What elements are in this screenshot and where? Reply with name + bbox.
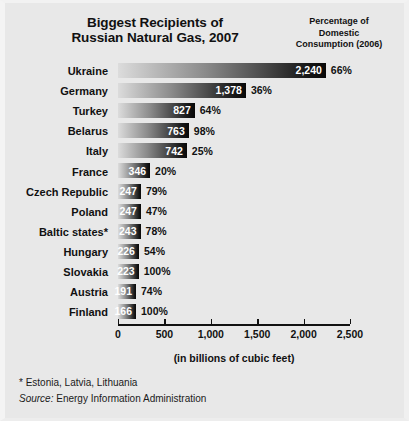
bar-wrapper: 76398% bbox=[118, 123, 215, 138]
chart-footer: * Estonia, Latvia, Lithuania Source: Ene… bbox=[19, 377, 389, 404]
bar-area: 223100% bbox=[118, 262, 404, 282]
bar: 346 bbox=[118, 163, 150, 178]
x-axis-caption: (in billions of cubic feet) bbox=[118, 352, 350, 364]
bar-value-label: 742 bbox=[165, 146, 187, 157]
percentage-label: 66% bbox=[326, 65, 352, 76]
category-label: Germany bbox=[5, 81, 113, 101]
bar-value-label: 1,378 bbox=[216, 85, 246, 96]
x-axis-tick-label: 2,500 bbox=[337, 328, 363, 340]
bar-wrapper: 223100% bbox=[118, 264, 171, 279]
x-axis-tick-label: 2,000 bbox=[290, 328, 316, 340]
bar-value-label: 827 bbox=[173, 105, 195, 116]
category-label: Turkey bbox=[5, 101, 113, 121]
bar: 223 bbox=[118, 264, 139, 279]
bar-area: 166100% bbox=[118, 302, 404, 322]
bar-wrapper: 82764% bbox=[118, 103, 221, 118]
percentage-column-header-line-1: Percentage of bbox=[280, 16, 398, 28]
percentage-label: 36% bbox=[246, 85, 272, 96]
percentage-label: 78% bbox=[141, 226, 167, 237]
bar: 742 bbox=[118, 143, 187, 158]
bar-chart-plot: Ukraine2,24066%Germany1,37836%Turkey8276… bbox=[5, 61, 404, 323]
bar-area: 24378% bbox=[118, 222, 404, 242]
percentage-column-header-line-2: Domestic bbox=[280, 28, 398, 40]
bar: 247 bbox=[118, 204, 141, 219]
bar-area: 2,24066% bbox=[118, 61, 404, 81]
bar-area: 24747% bbox=[118, 202, 404, 222]
chart-row: Czech Republic24779% bbox=[5, 182, 404, 202]
chart-row: Poland24747% bbox=[5, 202, 404, 222]
source-label: Source: bbox=[19, 393, 53, 404]
category-label: Poland bbox=[5, 202, 113, 222]
percentage-label: 54% bbox=[139, 246, 165, 257]
category-label: Finland bbox=[5, 302, 113, 322]
chart-title-line-2: Russian Natural Gas, 2007 bbox=[23, 30, 287, 45]
category-label: Czech Republic bbox=[5, 182, 113, 202]
bar: 2,240 bbox=[118, 63, 326, 78]
source-line: Source: Energy Information Administratio… bbox=[19, 393, 389, 404]
x-axis-tick bbox=[211, 319, 212, 324]
percentage-label: 100% bbox=[139, 266, 171, 277]
bar-area: 1,37836% bbox=[118, 81, 404, 101]
bar-value-label: 247 bbox=[119, 186, 141, 197]
percentage-label: 74% bbox=[136, 286, 162, 297]
bar: 191 bbox=[118, 284, 136, 299]
x-axis-tick bbox=[350, 319, 351, 324]
percentage-column-header-line-3: Consumption (2006) bbox=[280, 39, 398, 51]
bar-area: 24779% bbox=[118, 182, 404, 202]
bar: 763 bbox=[118, 123, 189, 138]
chart-title-line-1: Biggest Recipients of bbox=[23, 15, 287, 30]
bar-value-label: 2,240 bbox=[296, 65, 326, 76]
bar-value-label: 346 bbox=[129, 166, 151, 177]
bar: 827 bbox=[118, 103, 195, 118]
category-label: Austria bbox=[5, 282, 113, 302]
bar-wrapper: 1,37836% bbox=[118, 83, 272, 98]
category-label: Ukraine bbox=[5, 61, 113, 81]
chart-row: Italy74225% bbox=[5, 141, 404, 161]
bar-wrapper: 24378% bbox=[118, 224, 167, 239]
bar: 1,378 bbox=[118, 83, 246, 98]
category-label: France bbox=[5, 161, 113, 181]
bar-value-label: 243 bbox=[119, 226, 141, 237]
percentage-label: 20% bbox=[150, 166, 176, 177]
chart-row: Ukraine2,24066% bbox=[5, 61, 404, 81]
bar-value-label: 763 bbox=[167, 126, 189, 137]
percentage-label: 79% bbox=[141, 186, 167, 197]
percentage-label: 64% bbox=[195, 105, 221, 116]
category-label: Italy bbox=[5, 141, 113, 161]
page-title: Biggest Recipients of Russian Natural Ga… bbox=[23, 15, 287, 45]
bar: 243 bbox=[118, 224, 141, 239]
bar-wrapper: 19174% bbox=[118, 284, 162, 299]
bar-wrapper: 24747% bbox=[118, 204, 167, 219]
bar-wrapper: 2,24066% bbox=[118, 63, 352, 78]
x-axis-tick-label: 1,500 bbox=[244, 328, 270, 340]
bar-area: 22654% bbox=[118, 242, 404, 262]
category-label: Belarus bbox=[5, 121, 113, 141]
x-axis-tick-label: 0 bbox=[115, 328, 121, 340]
bar-wrapper: 166100% bbox=[118, 304, 168, 319]
category-label: Hungary bbox=[5, 242, 113, 262]
x-axis-tick-label: 1,000 bbox=[198, 328, 224, 340]
chart-row: Finland166100% bbox=[5, 302, 404, 322]
percentage-label: 100% bbox=[136, 306, 168, 317]
bar-area: 82764% bbox=[118, 101, 404, 121]
x-axis-line bbox=[118, 324, 350, 326]
x-axis-tick bbox=[304, 319, 305, 324]
chart-row: Belarus76398% bbox=[5, 121, 404, 141]
x-axis-tick bbox=[118, 319, 119, 324]
chart-header: Biggest Recipients of Russian Natural Ga… bbox=[5, 15, 404, 61]
bar-wrapper: 34620% bbox=[118, 163, 176, 178]
bar-value-label: 191 bbox=[114, 286, 136, 297]
percentage-label: 98% bbox=[189, 126, 215, 137]
bar: 226 bbox=[118, 244, 139, 259]
x-axis-tick bbox=[257, 319, 258, 324]
chart-row: Germany1,37836% bbox=[5, 81, 404, 101]
x-axis: 05001,0001,5002,0002,500 bbox=[118, 324, 350, 350]
x-axis-tick-label: 500 bbox=[156, 328, 174, 340]
chart-row: France34620% bbox=[5, 161, 404, 181]
percentage-column-header: Percentage of Domestic Consumption (2006… bbox=[280, 16, 398, 51]
bar-area: 34620% bbox=[118, 161, 404, 181]
bar-wrapper: 22654% bbox=[118, 244, 165, 259]
bar-wrapper: 74225% bbox=[118, 143, 213, 158]
bar-value-label: 247 bbox=[119, 206, 141, 217]
bar-wrapper: 24779% bbox=[118, 184, 167, 199]
